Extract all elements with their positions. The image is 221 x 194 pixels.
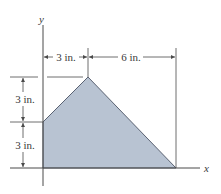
centroid-diagram: y x 3 in. 6 in. 3 in. 3 in. (0, 0, 221, 194)
dim-label-top-left: 3 in. (56, 51, 76, 63)
dim-label-top-right: 6 in. (121, 51, 141, 63)
y-axis-label: y (38, 13, 44, 25)
shaded-area (43, 77, 176, 168)
dim-label-left-lower: 3 in. (15, 139, 35, 151)
dim-label-left-upper: 3 in. (15, 93, 35, 105)
x-axis-label: x (203, 162, 209, 174)
